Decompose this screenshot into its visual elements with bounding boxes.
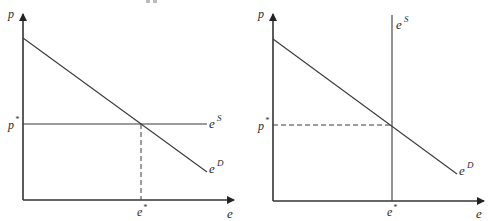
left-qty-eq-star: * bbox=[143, 203, 147, 212]
right-panel: p e p * e * e S e D bbox=[257, 7, 484, 221]
right-supply-label: e bbox=[396, 17, 402, 32]
right-demand-sup: D bbox=[466, 160, 474, 170]
left-demand-curve bbox=[23, 38, 207, 172]
right-qty-eq-star: * bbox=[393, 203, 397, 212]
right-supply-sup: S bbox=[404, 14, 409, 24]
right-price-eq-star: * bbox=[265, 116, 269, 125]
left-supply-label: e bbox=[209, 116, 215, 131]
cropped-text-fragment bbox=[146, 0, 157, 3]
left-demand-sup: D bbox=[216, 158, 224, 168]
left-panel: p e p * e * e S e D bbox=[7, 7, 234, 221]
supply-demand-figure: p e p * e * e S e D p e p * e * e S e D bbox=[0, 0, 493, 221]
left-y-axis-label: p bbox=[7, 7, 14, 21]
right-y-axis-label: p bbox=[257, 7, 264, 21]
left-supply-sup: S bbox=[217, 113, 222, 123]
right-x-axis-label: e bbox=[476, 206, 482, 221]
left-x-axis-label: e bbox=[227, 206, 233, 221]
right-demand-curve bbox=[273, 39, 457, 174]
right-demand-label: e bbox=[459, 163, 465, 178]
right-price-eq-label: p bbox=[257, 119, 264, 133]
left-price-eq-label: p bbox=[7, 118, 14, 132]
left-demand-label: e bbox=[209, 161, 215, 176]
left-price-eq-star: * bbox=[15, 115, 19, 124]
